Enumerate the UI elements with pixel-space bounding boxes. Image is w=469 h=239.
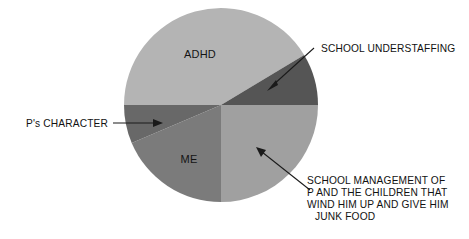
slice-label-me: ME [181, 153, 198, 165]
slice-label-adhd: ADHD [184, 48, 216, 60]
callout-label-school-management-line1: SCHOOL MANAGEMENT OF [307, 175, 445, 186]
pie-chart: ADHD ME SCHOOL UNDERSTAFFING P's CHARACT… [0, 0, 469, 239]
callout-label-school-understaffing: SCHOOL UNDERSTAFFING [321, 43, 455, 54]
callout-label-school-management-line3: WIND HIM UP AND GIVE HIM [307, 199, 449, 210]
pie-slice-school-management[interactable] [221, 105, 318, 202]
callout-label-school-management-line4: JUNK FOOD [315, 211, 375, 222]
chart-canvas: ADHD ME SCHOOL UNDERSTAFFING P's CHARACT… [0, 0, 469, 239]
callout-label-school-management-line2: P AND THE CHILDREN THAT [307, 187, 447, 198]
callout-label-ps-character: P's CHARACTER [26, 118, 108, 129]
